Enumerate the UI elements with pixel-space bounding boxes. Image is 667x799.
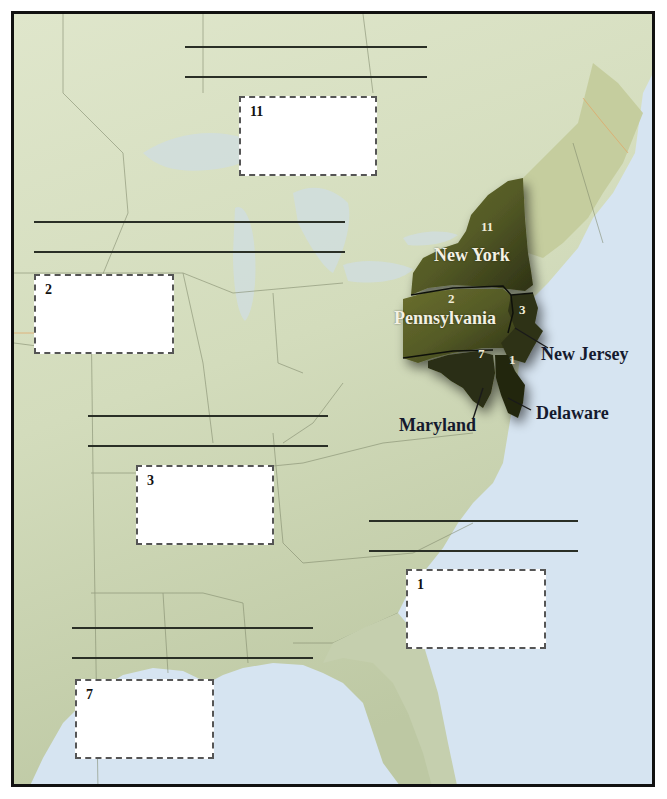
answer-line-1-top[interactable] — [369, 520, 578, 522]
answer-line-1-bottom[interactable] — [369, 550, 578, 552]
answer-line-2-top[interactable] — [34, 221, 345, 223]
answer-box-number: 1 — [417, 577, 424, 593]
maryland-label: Maryland — [399, 415, 476, 436]
answer-box-number: 7 — [86, 687, 93, 703]
answer-line-2-bottom[interactable] — [34, 251, 345, 253]
answer-line-11-top[interactable] — [185, 46, 427, 48]
answer-line-3-top[interactable] — [88, 415, 328, 417]
answer-box-11[interactable]: 11 — [239, 96, 377, 176]
answer-box-number: 3 — [147, 473, 154, 489]
maryland-number: 7 — [478, 346, 485, 362]
delaware-number: 1 — [509, 352, 516, 368]
new-york-number: 11 — [481, 219, 493, 235]
answer-box-number: 11 — [250, 104, 263, 120]
delaware-label: Delaware — [536, 403, 609, 424]
answer-line-3-bottom[interactable] — [88, 445, 328, 447]
answer-line-7-bottom[interactable] — [72, 657, 313, 659]
answer-box-1[interactable]: 1 — [406, 569, 546, 649]
new-york-label: New York — [434, 245, 510, 266]
answer-line-11-bottom[interactable] — [185, 76, 427, 78]
answer-line-7-top[interactable] — [72, 627, 313, 629]
pennsylvania-number: 2 — [448, 291, 455, 307]
new-jersey-label: New Jersey — [541, 344, 628, 365]
answer-box-3[interactable]: 3 — [136, 465, 274, 545]
new-jersey-number: 3 — [519, 302, 526, 318]
answer-box-2[interactable]: 2 — [34, 274, 174, 354]
pennsylvania-label: Pennsylvania — [394, 308, 496, 329]
answer-box-number: 2 — [45, 282, 52, 298]
answer-box-7[interactable]: 7 — [75, 679, 214, 759]
